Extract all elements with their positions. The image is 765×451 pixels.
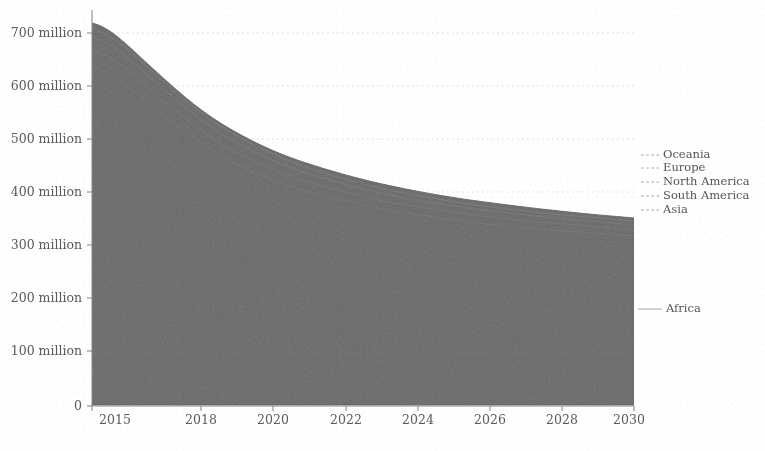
x-tick-label-2015: 2015 [99, 412, 131, 427]
y-tick-label-100: 100 million [11, 343, 82, 358]
legend-label-south-america: South America [663, 188, 750, 202]
legend-item-south-america[interactable]: South America [641, 188, 750, 202]
x-tick-label-2018: 2018 [185, 412, 217, 427]
legend-label-africa: Africa [665, 301, 701, 315]
legend-item-oceania[interactable]: Oceania [641, 147, 711, 161]
stacked-area-chart: 700 million 600 million 500 million 400 … [0, 0, 765, 451]
y-tick-label-600: 600 million [11, 78, 82, 93]
x-tick-label-2022: 2022 [330, 412, 362, 427]
legend-label-north-america: North America [663, 174, 750, 188]
y-tick-label-300: 300 million [11, 237, 82, 252]
legend-item-asia[interactable]: Asia [641, 202, 688, 216]
x-axis-tick-labels: 2015 2018 2020 2022 2024 2026 2028 2030 [99, 412, 645, 427]
legend-label-europe: Europe [663, 160, 706, 174]
y-tick-label-200: 200 million [11, 290, 82, 305]
y-tick-label-0: 0 [74, 398, 82, 413]
y-tick-label-400: 400 million [11, 184, 82, 199]
legend-label-asia: Asia [662, 202, 688, 216]
x-tick-marks [92, 406, 634, 411]
x-tick-label-2028: 2028 [546, 412, 578, 427]
area-series-group [92, 23, 634, 405]
legend-item-africa[interactable]: Africa [638, 301, 701, 315]
legend: Oceania Europe North America South Ameri… [638, 147, 750, 315]
y-tick-label-700: 700 million [11, 25, 82, 40]
y-tick-label-500: 500 million [11, 131, 82, 146]
legend-item-europe[interactable]: Europe [641, 160, 706, 174]
y-tick-marks [87, 33, 92, 406]
x-tick-label-2026: 2026 [474, 412, 506, 427]
legend-item-north-america[interactable]: North America [641, 174, 750, 188]
legend-label-oceania: Oceania [663, 147, 711, 161]
x-tick-label-2024: 2024 [402, 412, 434, 427]
x-tick-label-2020: 2020 [257, 412, 289, 427]
y-axis-tick-labels: 700 million 600 million 500 million 400 … [11, 25, 82, 413]
chart-container: 700 million 600 million 500 million 400 … [0, 0, 765, 451]
x-tick-label-2030: 2030 [613, 412, 645, 427]
